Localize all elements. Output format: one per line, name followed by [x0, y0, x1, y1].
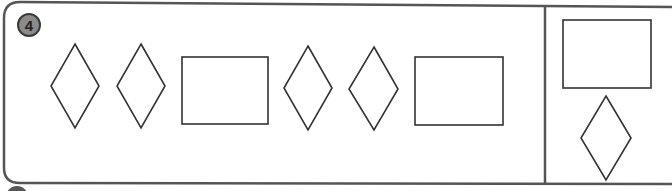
- diamond-shape: [349, 47, 398, 130]
- exercise-number: 4: [25, 17, 33, 34]
- pattern-sequence: [51, 44, 503, 130]
- diamond-shape: [51, 44, 99, 128]
- rectangle-shape: [415, 57, 503, 125]
- diamond-shape: [284, 46, 332, 130]
- exercise-panel: [0, 0, 672, 191]
- exercise-number-badge: 4: [17, 13, 41, 37]
- diamond-shape: [117, 44, 165, 128]
- rectangle-shape: [182, 57, 268, 124]
- answer-rectangle-option[interactable]: [563, 20, 651, 88]
- answer-diamond-option[interactable]: [581, 96, 631, 180]
- answer-options[interactable]: [563, 20, 651, 180]
- panel-border: [4, 2, 672, 184]
